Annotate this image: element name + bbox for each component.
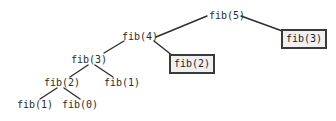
tree-edge xyxy=(70,65,88,77)
tree-node-boxed: fib(3) xyxy=(281,29,327,49)
tree-edge xyxy=(40,88,57,99)
tree-node: fib(1) xyxy=(17,99,53,110)
tree-node: fib(3) xyxy=(71,54,107,65)
tree-edge xyxy=(64,88,80,99)
tree-node: fib(0) xyxy=(62,99,98,110)
tree-node-boxed: fib(2) xyxy=(169,54,215,74)
tree-edge xyxy=(156,16,207,37)
tree-node: fib(2) xyxy=(44,77,80,88)
tree-node: fib(1) xyxy=(104,77,140,88)
tree-edge xyxy=(241,16,285,32)
tree-edge xyxy=(104,41,124,53)
tree-node: fib(4) xyxy=(122,31,158,42)
tree-node: fib(5) xyxy=(209,10,245,21)
recursion-tree-diagram: fib(5)fib(4)fib(3)fib(3)fib(2)fib(2)fib(… xyxy=(0,0,336,121)
tree-edge xyxy=(95,65,113,77)
